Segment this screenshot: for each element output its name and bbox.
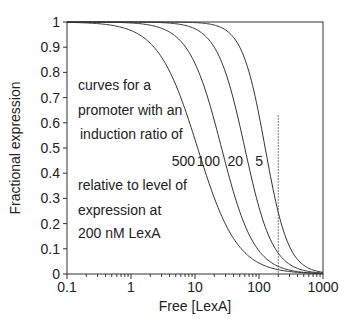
x-tick-label: 0.1	[57, 279, 77, 295]
annotation-text: induction ratio of	[80, 126, 183, 142]
y-axis-label: Fractional expression	[7, 81, 23, 214]
x-tick-label: 100	[247, 279, 271, 295]
x-tick-label: 10	[187, 279, 203, 295]
curve-label-20: 20	[227, 153, 243, 169]
x-tick-label: 1	[127, 279, 135, 295]
annotation-text: promoter with an	[78, 102, 182, 118]
y-tick-label: 0.2	[41, 216, 61, 232]
y-tick-label: 0.6	[41, 115, 61, 131]
curve-label-5: 5	[255, 153, 263, 169]
annotation-text: expression at	[78, 202, 161, 218]
chart: 00.10.20.30.40.50.60.70.80.910.111010010…	[0, 0, 352, 327]
y-tick-label: 0.9	[41, 39, 61, 55]
y-tick-label: 0.3	[41, 190, 61, 206]
y-tick-label: 1	[52, 14, 60, 30]
curve-label-100: 100	[197, 153, 221, 169]
annotation-text: 200 nM LexA	[78, 225, 161, 241]
y-tick-label: 0.5	[41, 140, 61, 156]
y-tick-label: 0.1	[41, 241, 61, 257]
y-tick-label: 0.4	[41, 165, 61, 181]
annotation-text: curves for a	[78, 77, 151, 93]
curve-label-500: 500	[172, 153, 196, 169]
annotation-text: relative to level of	[78, 177, 187, 193]
x-tick-label: 1000	[307, 279, 338, 295]
chart-plot: 00.10.20.30.40.50.60.70.80.910.111010010…	[0, 0, 352, 327]
y-tick-label: 0.8	[41, 64, 61, 80]
y-tick-label: 0.7	[41, 90, 61, 106]
x-axis-label: Free [LexA]	[159, 298, 231, 314]
